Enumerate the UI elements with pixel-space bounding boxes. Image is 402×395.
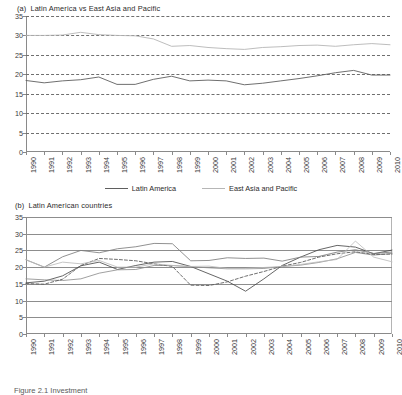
x-tick-mark: [44, 334, 45, 337]
x-axis-tick-label: 2003: [267, 339, 276, 355]
legend-a: Latin AmericaEast Asia and Pacific: [0, 184, 402, 193]
x-tick-mark: [264, 334, 265, 337]
x-axis-tick-label: 1990: [29, 339, 38, 355]
x-axis-tick-label: 1998: [175, 157, 184, 173]
figure-caption: Figure 2.1 Investment: [14, 386, 400, 395]
x-axis-tick-label: 1990: [29, 157, 38, 173]
x-tick-mark: [172, 152, 173, 155]
x-axis-tick-label: 2004: [285, 339, 294, 355]
legend-item: Latin America: [105, 184, 176, 193]
plot-area-b: 0510152025303519901991199219931994199519…: [26, 217, 392, 334]
x-axis-tick-label: 1992: [66, 339, 75, 355]
x-tick-mark: [319, 334, 320, 337]
x-axis-tick-label: 1996: [138, 157, 147, 173]
x-axis-tick-label: 2000: [211, 157, 220, 173]
x-axis-tick-label: 2004: [284, 157, 293, 173]
x-axis-tick-label: 1998: [175, 339, 184, 355]
x-tick-mark: [118, 334, 119, 337]
y-axis-tick-label: 30: [15, 229, 23, 238]
x-axis-tick-label: 1995: [121, 339, 130, 355]
x-tick-mark: [26, 152, 27, 155]
x-tick-mark: [154, 334, 155, 337]
x-axis-tick-label: 2006: [322, 339, 331, 355]
x-tick-mark: [208, 152, 209, 155]
panel-b-title-text: Latin American countries: [28, 201, 112, 210]
x-tick-mark: [244, 152, 245, 155]
x-axis-tick-label: 1999: [194, 339, 203, 355]
x-tick-mark: [335, 152, 336, 155]
legend-swatch: [202, 188, 225, 189]
x-tick-mark: [337, 334, 338, 337]
y-axis-tick-label: 35: [15, 213, 23, 222]
y-axis-tick-label: 15: [15, 89, 23, 98]
x-tick-mark: [136, 334, 137, 337]
plot-frame-a: 0510152025303519901991199219931994199519…: [26, 16, 390, 152]
series-layer: [26, 217, 392, 334]
x-axis-tick-label: 1994: [102, 157, 111, 173]
series-line-colombia: [26, 252, 392, 286]
x-axis-tick-label: 2000: [212, 339, 221, 355]
panel-b-tag: (b): [15, 201, 24, 210]
chart-panel-b: (b)Latin American countries 051015202530…: [0, 198, 402, 384]
x-tick-mark: [281, 152, 282, 155]
x-tick-mark: [99, 152, 100, 155]
x-axis-tick-label: 2003: [266, 157, 275, 173]
series-line-latin-america: [26, 70, 390, 84]
y-axis-tick-label: 0: [19, 148, 23, 157]
x-axis-tick-label: 1991: [47, 339, 56, 355]
legend-item: East Asia and Pacific: [202, 184, 297, 193]
x-axis-tick-label: 2007: [338, 157, 347, 173]
x-tick-mark: [26, 334, 27, 337]
x-tick-mark: [44, 152, 45, 155]
y-axis-tick-label: 0: [19, 330, 23, 339]
x-axis-tick-label: 2001: [230, 339, 239, 355]
y-axis-tick-label: 10: [15, 109, 23, 118]
panel-b-title: (b)Latin American countries: [15, 201, 112, 210]
x-axis-tick-label: 1997: [156, 157, 165, 173]
plot-frame-b: 0510152025303519901991199219931994199519…: [26, 217, 392, 334]
x-tick-mark: [135, 152, 136, 155]
legend-swatch: [105, 188, 128, 189]
x-tick-mark: [374, 334, 375, 337]
x-axis-tick-label: 2005: [302, 157, 311, 173]
x-tick-mark: [227, 334, 228, 337]
panel-a-title-text: Latin America vs East Asia and Pacific: [30, 4, 160, 13]
x-tick-mark: [354, 152, 355, 155]
y-axis-tick-label: 25: [15, 50, 23, 59]
x-axis-tick-label: 1992: [65, 157, 74, 173]
x-axis-tick-label: 2001: [229, 157, 238, 173]
x-tick-mark: [392, 334, 393, 337]
x-tick-mark: [263, 152, 264, 155]
x-axis-tick-label: 2007: [340, 339, 349, 355]
x-tick-mark: [117, 152, 118, 155]
panel-a-title: (a)Latin America vs East Asia and Pacifi…: [17, 4, 160, 13]
y-axis-tick-label: 10: [15, 296, 23, 305]
y-axis-tick-label: 20: [15, 263, 23, 272]
x-tick-mark: [81, 334, 82, 337]
x-tick-mark: [62, 152, 63, 155]
x-tick-mark: [190, 152, 191, 155]
x-tick-mark: [226, 152, 227, 155]
chart-panel-a: (a)Latin America vs East Asia and Pacifi…: [0, 0, 402, 200]
x-tick-mark: [390, 152, 391, 155]
legend-label: East Asia and Pacific: [229, 184, 297, 193]
x-axis-tick-label: 1993: [84, 157, 93, 173]
x-axis-tick-label: 2008: [357, 157, 366, 173]
series-layer: [26, 16, 390, 152]
x-axis-tick-label: 2006: [320, 157, 329, 173]
x-tick-mark: [153, 152, 154, 155]
x-axis-tick-label: 1991: [47, 157, 56, 173]
figure-container: (a)Latin America vs East Asia and Pacifi…: [0, 0, 402, 395]
x-axis-tick-label: 2008: [358, 339, 367, 355]
x-tick-mark: [301, 334, 302, 337]
x-axis-tick-label: 2009: [377, 339, 386, 355]
y-axis-tick-label: 15: [15, 279, 23, 288]
x-axis-tick-label: 2010: [395, 339, 402, 355]
x-tick-mark: [172, 334, 173, 337]
x-axis-tick-label: 1999: [193, 157, 202, 173]
x-tick-mark: [209, 334, 210, 337]
x-axis-tick-label: 2002: [249, 339, 258, 355]
y-axis-tick-label: 35: [15, 12, 23, 21]
x-tick-mark: [282, 334, 283, 337]
x-tick-mark: [191, 334, 192, 337]
